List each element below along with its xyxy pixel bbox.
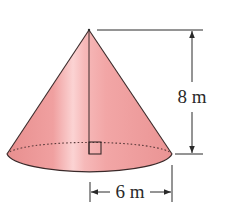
radius-label: 6 m bbox=[115, 181, 144, 202]
height-label: 8 m bbox=[177, 86, 206, 107]
apex-point bbox=[88, 29, 90, 31]
cone-diagram: 8 m 6 m bbox=[0, 0, 228, 202]
